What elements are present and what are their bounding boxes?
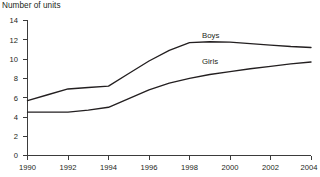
y-tick-label-10: 10 bbox=[2, 55, 18, 64]
y-tick-label-0: 0 bbox=[2, 151, 18, 160]
y-tick-label-4: 4 bbox=[2, 113, 18, 122]
x-axis-ticks bbox=[28, 156, 312, 161]
y-tick-label-6: 6 bbox=[2, 94, 18, 103]
y-tick-label-2: 2 bbox=[2, 132, 18, 141]
x-tick-label-1994: 1994 bbox=[94, 163, 124, 172]
line-chart: Number of units 14 bbox=[0, 0, 320, 177]
x-tick-label-1998: 1998 bbox=[175, 163, 205, 172]
chart-plot-area bbox=[0, 0, 320, 177]
y-tick-label-8: 8 bbox=[2, 74, 18, 83]
series-label-girls: Girls bbox=[202, 57, 218, 66]
series-line-boys bbox=[28, 42, 312, 101]
series-line-girls bbox=[28, 62, 312, 112]
x-tick-label-1992: 1992 bbox=[53, 163, 83, 172]
y-tick-label-14: 14 bbox=[2, 16, 18, 25]
x-tick-label-1996: 1996 bbox=[134, 163, 164, 172]
series-label-boys: Boys bbox=[202, 31, 219, 40]
axes bbox=[28, 20, 312, 156]
x-tick-label-2002: 2002 bbox=[256, 163, 286, 172]
x-tick-label-2004: 2004 bbox=[294, 163, 320, 172]
y-axis-ticks bbox=[23, 21, 28, 156]
x-tick-label-1990: 1990 bbox=[13, 163, 43, 172]
y-tick-label-12: 12 bbox=[2, 36, 18, 45]
x-tick-label-2000: 2000 bbox=[215, 163, 245, 172]
